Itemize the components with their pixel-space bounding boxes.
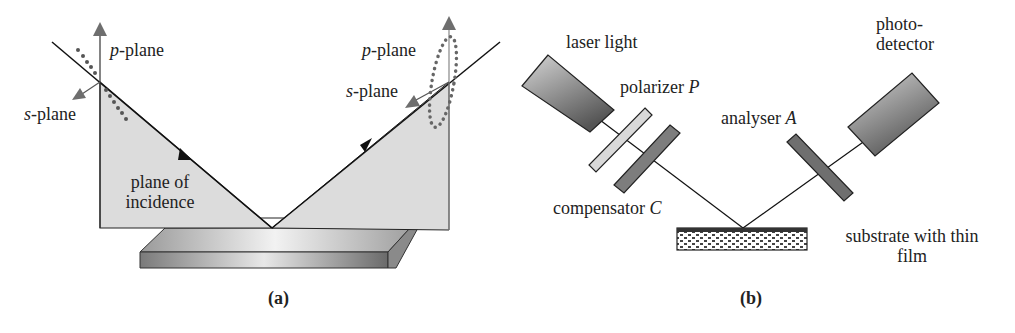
laser-light-box	[522, 55, 614, 132]
sample-slab	[140, 228, 418, 268]
plane-of-incidence-label: plane of incidence	[110, 172, 210, 212]
photodetector-label: photo- detector	[876, 14, 934, 54]
s-plane-label-right: s-plane	[346, 81, 398, 101]
incident-arrowhead	[178, 148, 192, 160]
substrate-with-thin-film	[677, 228, 807, 250]
caption-b: (b)	[740, 288, 762, 309]
analyser-label: analyser A	[721, 108, 796, 128]
polarizer-label: polarizer P	[620, 77, 699, 97]
p-arrow-right	[442, 16, 456, 30]
compensator-label: compensator C	[553, 198, 661, 218]
p-plane-label-left: p-plane	[110, 40, 164, 60]
analyser-plate	[787, 134, 853, 201]
s-arrow-left	[72, 88, 86, 100]
p-arrow-left	[93, 22, 107, 36]
laser-light-label: laser light	[566, 32, 637, 52]
s-plane-label-left: s-plane	[24, 104, 76, 124]
panel-b	[522, 55, 939, 250]
p-plane-label-right: p-plane	[362, 40, 416, 60]
substrate-label: substrate with thin film	[822, 226, 1002, 266]
reflected-beam	[743, 130, 880, 228]
s-arrow-right	[405, 95, 420, 108]
caption-a: (a)	[268, 288, 289, 309]
